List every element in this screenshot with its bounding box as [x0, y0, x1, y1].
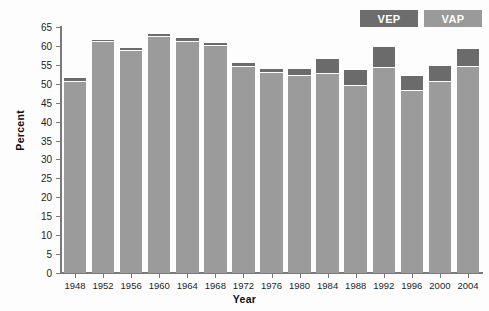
- y-tick-label-5: 5: [46, 249, 52, 260]
- bar-segment-vep-1960[interactable]: [148, 34, 170, 36]
- y-tick-label-40: 40: [41, 116, 52, 127]
- bar-chart: VEP VAP 05101520253035404550556065 19481…: [0, 0, 489, 311]
- y-tick-label-60: 60: [41, 40, 52, 51]
- bar-segment-vap-1992[interactable]: [373, 68, 395, 274]
- x-tick-1996: [412, 274, 413, 278]
- x-tick-label-1996: 1996: [401, 280, 422, 291]
- x-tick-1984: [328, 274, 329, 278]
- bar-segment-vap-1972[interactable]: [232, 67, 254, 273]
- x-tick-2004: [468, 274, 469, 278]
- bar-1988[interactable]: [344, 70, 366, 273]
- bar-segment-vep-1948[interactable]: [64, 78, 86, 81]
- y-tick-label-45: 45: [41, 97, 52, 108]
- bar-segment-vep-2004[interactable]: [457, 49, 479, 67]
- bar-1984[interactable]: [316, 59, 338, 273]
- bar-1972[interactable]: [232, 63, 254, 273]
- bar-1992[interactable]: [373, 47, 395, 273]
- plot-area: [61, 27, 482, 273]
- bar-2000[interactable]: [429, 66, 451, 273]
- bar-segment-vap-1960[interactable]: [148, 37, 170, 273]
- y-tick-label-15: 15: [41, 211, 52, 222]
- y-tick-label-30: 30: [41, 154, 52, 165]
- legend-item-vap[interactable]: VAP: [424, 10, 482, 27]
- x-tick-1956: [131, 274, 132, 278]
- bar-1964[interactable]: [176, 38, 198, 273]
- y-tick-label-50: 50: [41, 78, 52, 89]
- x-tick-label-1980: 1980: [289, 280, 310, 291]
- y-tick-label-65: 65: [41, 22, 52, 33]
- chart-legend: VEP VAP: [360, 10, 482, 27]
- bar-1956[interactable]: [120, 48, 142, 273]
- bar-segment-vep-1988[interactable]: [344, 70, 366, 85]
- bar-segment-vap-1976[interactable]: [260, 73, 282, 273]
- y-tick-label-0: 0: [46, 268, 52, 279]
- x-tick-label-2004: 2004: [457, 280, 478, 291]
- x-tick-label-1984: 1984: [317, 280, 338, 291]
- bar-1980[interactable]: [288, 69, 310, 273]
- bar-1976[interactable]: [260, 69, 282, 273]
- bar-1996[interactable]: [401, 76, 423, 273]
- bar-segment-vep-1992[interactable]: [373, 47, 395, 67]
- x-tick-label-1952: 1952: [93, 280, 114, 291]
- y-tick-label-35: 35: [41, 135, 52, 146]
- bar-segment-vap-1948[interactable]: [64, 82, 86, 273]
- x-tick-1976: [272, 274, 273, 278]
- x-tick-2000: [440, 274, 441, 278]
- y-tick-label-55: 55: [41, 59, 52, 70]
- bar-segment-vap-1956[interactable]: [120, 51, 142, 273]
- x-tick-label-1992: 1992: [373, 280, 394, 291]
- bar-segment-vap-1984[interactable]: [316, 74, 338, 273]
- bar-segment-vap-1988[interactable]: [344, 86, 366, 273]
- bar-1960[interactable]: [148, 34, 170, 273]
- bar-segment-vep-1984[interactable]: [316, 59, 338, 73]
- bar-segment-vep-1972[interactable]: [232, 63, 254, 66]
- x-tick-1992: [384, 274, 385, 278]
- bar-segment-vep-1964[interactable]: [176, 38, 198, 41]
- x-tick-label-1968: 1968: [205, 280, 226, 291]
- bar-segment-vap-2000[interactable]: [429, 82, 451, 274]
- bar-segment-vap-1952[interactable]: [92, 42, 114, 273]
- bar-segment-vap-1996[interactable]: [401, 91, 423, 273]
- bar-segment-vep-1996[interactable]: [401, 76, 423, 90]
- bar-segment-vep-1952[interactable]: [92, 40, 114, 42]
- x-tick-label-1988: 1988: [345, 280, 366, 291]
- y-tick-label-25: 25: [41, 173, 52, 184]
- x-tick-label-1948: 1948: [64, 280, 85, 291]
- x-tick-label-1972: 1972: [233, 280, 254, 291]
- x-tick-1972: [243, 274, 244, 278]
- bar-1968[interactable]: [204, 43, 226, 273]
- x-axis-title: Year: [0, 293, 489, 305]
- bar-segment-vep-1976[interactable]: [260, 69, 282, 73]
- y-tick-label-20: 20: [41, 192, 52, 203]
- x-tick-label-1960: 1960: [149, 280, 170, 291]
- x-tick-1988: [356, 274, 357, 278]
- x-tick-label-1964: 1964: [177, 280, 198, 291]
- x-tick-label-1976: 1976: [261, 280, 282, 291]
- x-tick-1952: [103, 274, 104, 278]
- bar-segment-vep-1980[interactable]: [288, 69, 310, 75]
- bar-segment-vap-1964[interactable]: [176, 42, 198, 273]
- legend-label-vep: VEP: [377, 13, 400, 25]
- bar-segment-vep-1968[interactable]: [204, 43, 226, 45]
- x-tick-1948: [75, 274, 76, 278]
- bar-segment-vap-1968[interactable]: [204, 46, 226, 273]
- x-tick-1964: [187, 274, 188, 278]
- bar-1952[interactable]: [92, 40, 114, 274]
- x-tick-1980: [300, 274, 301, 278]
- y-tick-label-10: 10: [41, 230, 52, 241]
- legend-label-vap: VAP: [441, 13, 464, 25]
- x-tick-label-1956: 1956: [121, 280, 142, 291]
- y-axis-ticks: 05101520253035404550556065: [0, 26, 61, 274]
- bar-segment-vep-2000[interactable]: [429, 66, 451, 81]
- x-axis-ticks: 1948195219561960196419681972197619801984…: [61, 274, 482, 279]
- bar-segment-vap-1980[interactable]: [288, 76, 310, 273]
- bar-2004[interactable]: [457, 49, 479, 273]
- bar-segment-vap-2004[interactable]: [457, 67, 479, 273]
- legend-item-vep[interactable]: VEP: [360, 10, 418, 27]
- x-tick-1968: [215, 274, 216, 278]
- x-tick-1960: [159, 274, 160, 278]
- x-tick-label-2000: 2000: [429, 280, 450, 291]
- bar-segment-vep-1956[interactable]: [120, 48, 142, 50]
- bar-1948[interactable]: [64, 78, 86, 273]
- y-axis-title: Percent: [14, 110, 26, 151]
